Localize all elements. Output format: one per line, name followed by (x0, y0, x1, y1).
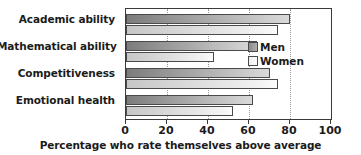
bar-emotional-health-men[interactable] (126, 95, 253, 105)
legend: Men Women (248, 40, 318, 68)
bar-competitiveness-women[interactable] (126, 79, 278, 89)
bar-academic-ability-men[interactable] (126, 14, 290, 24)
legend-label-women: Women (260, 55, 304, 67)
category-label-academic-ability: Academic ability (0, 13, 115, 25)
x-axis-title: Percentage who rate themselves above ave… (0, 139, 361, 151)
tick-label-0: 0 (121, 124, 129, 137)
category-label-mathematical-ability: Mathematical ability (0, 40, 115, 52)
legend-swatch-women-icon (248, 56, 258, 66)
tick-label-40: 40 (199, 124, 214, 137)
bar-emotional-health-women[interactable] (126, 106, 233, 116)
bar-mathematical-ability-men[interactable] (126, 41, 257, 51)
legend-item-men[interactable]: Men (248, 40, 318, 53)
bar-mathematical-ability-women[interactable] (126, 52, 214, 62)
bar-competitiveness-men[interactable] (126, 68, 270, 78)
tick-label-20: 20 (158, 124, 173, 137)
legend-label-men: Men (260, 41, 285, 53)
category-axis-labels: Academic ability Mathematical ability Co… (0, 8, 119, 118)
bar-chart: Academic ability Mathematical ability Co… (0, 0, 361, 155)
tick-label-100: 100 (319, 124, 342, 137)
tick-label-60: 60 (240, 124, 255, 137)
x-axis-tick-labels: 020406080100 (0, 124, 361, 138)
category-label-emotional-health: Emotional health (0, 94, 115, 106)
legend-item-women[interactable]: Women (248, 54, 318, 67)
bar-academic-ability-women[interactable] (126, 25, 278, 35)
category-label-competitiveness: Competitiveness (0, 67, 115, 79)
legend-swatch-men-icon (248, 42, 258, 52)
tick-label-80: 80 (281, 124, 296, 137)
